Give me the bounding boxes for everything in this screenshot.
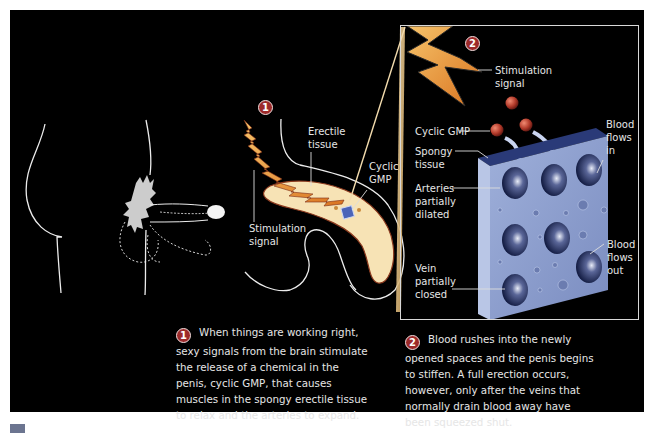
label-cyclic-gmp-step2: Cyclic GMP (415, 125, 470, 138)
glans-illustration (207, 205, 225, 219)
label-arteries-dilated: Arteries partially dilated (415, 182, 456, 221)
caption-step2: 2Blood rushes into the newly opened spac… (405, 331, 595, 430)
label-stimulation-signal-step1: Stimulation signal (249, 222, 306, 248)
step2-badge: 2 (465, 36, 480, 51)
step1-badge: 1 (258, 100, 273, 115)
caption-step2-badge: 2 (405, 335, 420, 350)
label-stimulation-signal-step2: Stimulation signal (495, 64, 552, 90)
caption-step1: 1When things are working right, sexy sig… (176, 324, 371, 423)
caption-step2-text: Blood rushes into the newly opened space… (405, 333, 594, 428)
label-erectile-tissue: Erectile tissue (308, 125, 346, 151)
label-blood-flows-in: Blood flows in (606, 118, 634, 157)
label-cyclic-gmp-step1: Cyclic GMP (369, 160, 398, 186)
body-outline-illustration (26, 120, 210, 295)
footer-color-tab (10, 424, 25, 433)
cyclic-gmp-marker (341, 206, 354, 219)
label-blood-flows-out: Blood flows out (607, 238, 635, 277)
caption-step1-text: When things are working right, sexy sign… (176, 326, 368, 421)
label-vein-closed: Vein partially closed (415, 262, 456, 301)
caption-step1-badge: 1 (176, 328, 191, 343)
label-spongy-tissue: Spongy tissue (415, 145, 452, 171)
pubic-hair-texture (123, 175, 156, 233)
